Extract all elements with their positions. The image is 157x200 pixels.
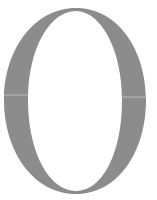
letter-o-glyph: [0, 0, 157, 200]
letter-o-shape: [0, 0, 157, 200]
